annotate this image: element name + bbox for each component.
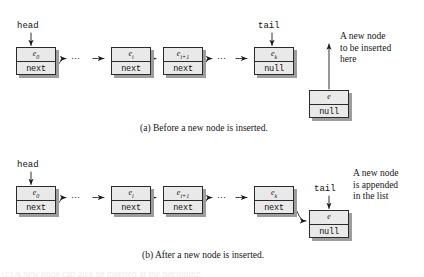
node-pointer-cell: next	[255, 201, 293, 215]
annotation-line: in the list	[353, 191, 424, 203]
node-pointer-cell: next	[17, 201, 55, 215]
annotation-line: is appended	[353, 180, 424, 192]
annotation-line: to be inserted	[340, 43, 424, 55]
node-element-label: ei	[128, 50, 133, 60]
node-body: e null	[309, 90, 349, 118]
node-element-cell: e0	[17, 48, 55, 62]
node-body: e null	[309, 210, 349, 238]
node-element-cell: ek	[255, 48, 293, 62]
node-element-cell: ei+1	[164, 48, 202, 62]
panel-b-ellipsis-1: ⋯	[71, 194, 81, 203]
node-body: ei next	[111, 186, 151, 214]
node-pointer-cell: next	[112, 201, 150, 215]
panel-b-annotation: A new node is appended in the list	[353, 168, 424, 203]
annotation-line: A new node	[340, 31, 424, 43]
panel-a-ellipsis-1: ⋯	[71, 55, 81, 64]
head-label-a: head	[17, 22, 39, 31]
node-pointer-cell: next	[112, 62, 150, 76]
annotation-line: A new node	[353, 168, 424, 180]
node-element-label: ek	[271, 50, 277, 60]
node-element-cell: e0	[17, 187, 55, 201]
node-pointer-label: null	[319, 228, 339, 237]
node-pointer-label: next	[26, 65, 46, 74]
node-element-cell: ei+1	[164, 187, 202, 201]
node-body: ek null	[254, 47, 294, 75]
node-pointer-cell: null	[310, 105, 348, 119]
panel-b-caption: (b) After a new node is inserted.	[142, 251, 264, 261]
node-element-label: ei+1	[177, 50, 189, 60]
node-pointer-label: next	[121, 65, 141, 74]
node-body: ek next	[254, 186, 294, 214]
node-element-cell: ei	[112, 187, 150, 201]
node-pointer-cell: next	[164, 201, 202, 215]
node-pointer-label: null	[264, 65, 284, 74]
node-element-label: e0	[33, 50, 40, 60]
node-element-label: e0	[33, 189, 40, 199]
node-body: e0 next	[16, 47, 56, 75]
node-pointer-cell: null	[310, 225, 348, 239]
node-element-label: ek	[271, 189, 277, 199]
page-cutoff-text-row: (c) A new node can also be inserted at t…	[0, 272, 424, 277]
annotation-line: here	[340, 54, 424, 66]
node-pointer-cell: next	[164, 62, 202, 76]
node-element-cell: ek	[255, 187, 293, 201]
node-element-cell: e	[310, 211, 348, 225]
node-pointer-label: next	[121, 204, 141, 213]
node-body: ei+1 next	[163, 47, 203, 75]
node-element-label: ei+1	[177, 189, 189, 199]
node-pointer-label: next	[173, 204, 193, 213]
node-element-cell: ei	[112, 48, 150, 62]
node-pointer-label: next	[264, 204, 284, 213]
node-element-label: e	[327, 213, 331, 223]
node-element-cell: e	[310, 91, 348, 105]
node-pointer-label: next	[173, 65, 193, 74]
node-body: ei next	[111, 47, 151, 75]
panel-a-caption: (a) Before a new node is inserted.	[140, 124, 268, 134]
node-pointer-cell: null	[255, 62, 293, 76]
panel-b-ellipsis-2: ⋯	[217, 194, 227, 203]
head-label-b: head	[17, 161, 39, 170]
node-pointer-label: null	[319, 108, 339, 117]
cutoff-text: (c) A new node can also be inserted at t…	[0, 272, 424, 277]
node-element-label: e	[327, 93, 331, 103]
panel-a-annotation: A new node to be inserted here	[340, 31, 424, 66]
tail-label-b: tail	[314, 185, 336, 194]
node-element-label: ei	[128, 189, 133, 199]
tail-label-a: tail	[258, 22, 280, 31]
node-body: ei+1 next	[163, 186, 203, 214]
node-pointer-label: next	[26, 204, 46, 213]
node-pointer-cell: next	[17, 62, 55, 76]
node-body: e0 next	[16, 186, 56, 214]
panel-a-ellipsis-2: ⋯	[217, 55, 227, 64]
figure-canvas: head e0 next ⋯ ei next ei+1	[0, 0, 424, 277]
